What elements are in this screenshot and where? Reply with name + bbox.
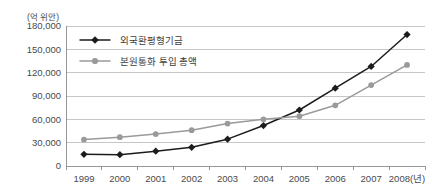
data-point-marker — [404, 62, 410, 68]
y-axis-tick-label: 90,000 — [32, 90, 61, 101]
data-point-marker — [368, 82, 374, 88]
data-point-marker — [296, 113, 302, 119]
data-series-layer — [80, 31, 410, 158]
data-point-marker — [188, 144, 195, 151]
data-point-marker — [153, 131, 159, 137]
y-axis-tick-labels: 180,000150,000120,00090,00060,00030,0000 — [27, 20, 61, 171]
y-axis-tick-label: 60,000 — [32, 114, 61, 125]
data-point-marker — [80, 151, 87, 158]
data-point-marker — [332, 102, 338, 108]
chart-canvas: (억 위안) 180,000150,000120,00090,00060,000… — [0, 0, 437, 196]
x-axis-tick-marks — [66, 166, 425, 170]
x-axis-tick-label: 2003 — [217, 173, 238, 184]
legend-label: 외국환평형기금 — [120, 35, 183, 46]
data-point-marker — [116, 151, 123, 158]
legend-marker — [91, 36, 99, 44]
data-point-marker — [224, 136, 231, 143]
data-point-marker — [81, 137, 87, 143]
data-point-marker — [117, 134, 123, 140]
x-axis-tick-label: 2000 — [109, 173, 130, 184]
x-axis-tick-label: 2005 — [289, 173, 310, 184]
legend-label: 본원통화 투입 총액 — [120, 56, 197, 67]
data-point-marker — [261, 116, 267, 122]
data-point-marker — [332, 85, 339, 92]
y-axis-tick-label: 120,000 — [27, 67, 61, 78]
x-axis-tick-label: 2008(년) — [389, 173, 425, 184]
x-axis-tick-label: 2002 — [181, 173, 202, 184]
data-point-marker — [152, 148, 159, 155]
y-axis-tick-label: 180,000 — [27, 20, 61, 31]
y-axis-tick-label: 30,000 — [32, 137, 61, 148]
x-axis-tick-label: 2007 — [361, 173, 382, 184]
data-point-marker — [260, 122, 267, 129]
x-axis-tick-label: 1999 — [73, 173, 94, 184]
x-axis-tick-label: 2004 — [253, 173, 274, 184]
legend-marker — [92, 58, 98, 64]
y-axis-tick-label: 150,000 — [27, 44, 61, 55]
line-chart: (억 위안) 180,000150,000120,00090,00060,000… — [0, 0, 437, 196]
x-axis-tick-label: 2006 — [325, 173, 346, 184]
data-point-marker — [225, 121, 231, 127]
data-point-marker — [296, 106, 303, 113]
data-point-marker — [189, 127, 195, 133]
x-axis-tick-label: 2001 — [145, 173, 166, 184]
chart-legend: 외국환평형기금본원통화 투입 총액 — [80, 35, 197, 67]
y-axis-tick-label: 0 — [56, 160, 61, 171]
x-axis-tick-labels: 1999200020012002200320042005200620072008… — [73, 173, 425, 184]
series-line — [84, 65, 407, 140]
